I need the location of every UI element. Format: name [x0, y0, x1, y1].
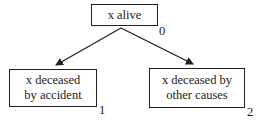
node-accident-line1: x deceased: [26, 73, 80, 88]
node-alive-label: x alive: [108, 8, 142, 23]
node-other-line1: x deceased by: [162, 73, 232, 88]
arrow-alive-to-accident: [56, 28, 121, 65]
arrow-alive-to-other-causes: [121, 28, 193, 64]
node-alive-index: 0: [159, 25, 165, 37]
node-accident-index: 1: [99, 104, 105, 116]
node-other-index: 2: [247, 106, 253, 118]
node-alive: x alive: [91, 4, 158, 26]
node-other-line2: other causes: [166, 88, 227, 103]
node-deceased-by-other-causes: x deceased by other causes: [149, 68, 245, 108]
node-deceased-by-accident: x deceased by accident: [9, 69, 97, 107]
node-accident-line2: by accident: [24, 88, 81, 103]
